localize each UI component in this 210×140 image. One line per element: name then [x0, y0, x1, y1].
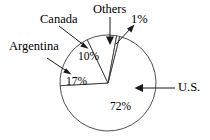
- callout-label-argentina: Argentina: [9, 40, 59, 53]
- callout-label-us: U.S.: [178, 81, 200, 94]
- pie-chart-svg: [0, 0, 210, 140]
- canada-leader-line: [59, 26, 85, 46]
- callout-label-others: Others: [93, 3, 126, 16]
- callout-label-one-percent: 1%: [131, 13, 148, 26]
- pie-chart-figure: Argentina Canada Others 1% U.S. 10% 17% …: [0, 0, 210, 140]
- callout-label-canada: Canada: [40, 13, 77, 26]
- slice-value-argentina: 17%: [66, 76, 87, 88]
- slice-value-canada: 10%: [78, 51, 99, 63]
- slice-value-us: 72%: [110, 101, 131, 113]
